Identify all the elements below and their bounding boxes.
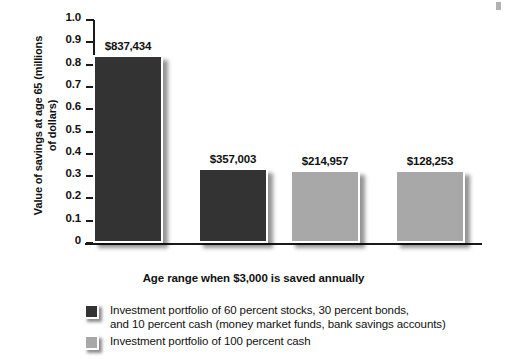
y-axis-tick: 0.9 [86,41,94,43]
y-axis-title: Value of savings at age 65 (millions of … [32,32,59,220]
y-axis-tick-label: 0.6 [66,100,81,112]
legend-swatch-dark [84,304,99,319]
y-axis-title-line-1: Value of savings at age 65 [32,83,44,215]
legend-label-line-2: and 10 percent cash (money market funds,… [110,317,446,331]
y-axis-tick-label: 0.5 [66,123,81,135]
legend-swatch-light [84,335,99,350]
legend-item: Investment portfolio of 100 percent cash [84,334,504,350]
y-axis-tick-label: 0.2 [66,189,81,201]
bar-value-label: $128,253 [407,155,453,167]
bar-chart-figure: Value of savings at age 65 (millions of … [0,0,507,359]
legend-item: Investment portfolio of 60 percent stock… [84,303,504,331]
y-axis-tick-label: 1.0 [66,11,81,23]
bar-value-label: $214,957 [302,155,348,167]
plot-area: 1.0 0.9 0.8 0.7 0.6 0.5 0.4 0.3 0.2 0.1 [93,20,483,243]
y-axis-tick-label: 0.9 [66,33,81,45]
scan-artifact [496,2,501,10]
bar-value-label: $837,434 [105,40,151,52]
bar: $837,434 [93,55,163,243]
chart-legend: Investment portfolio of 60 percent stock… [84,303,504,353]
y-axis-tick-label: 0 [75,234,81,246]
y-axis-tick: 1.0 [86,19,94,21]
legend-label: Investment portfolio of 60 percent stock… [110,303,446,331]
bar: $128,253 [395,170,465,243]
bar: $214,957 [290,170,360,243]
legend-label-line-1: Investment portfolio of 60 percent stock… [110,303,446,317]
y-axis-tick-label: 0.7 [66,78,81,90]
bar-value-label: $357,003 [210,153,256,165]
x-axis-line [85,243,482,245]
y-axis-tick-label: 0.4 [66,145,81,157]
y-axis-tick-label: 0.3 [66,167,81,179]
bar: $357,003 [198,168,268,243]
y-axis-tick-label: 0.8 [66,56,81,68]
legend-label-line-1: Investment portfolio of 100 percent cash [110,334,311,348]
legend-label: Investment portfolio of 100 percent cash [110,334,311,348]
y-axis-tick-label: 0.1 [66,212,81,224]
x-axis-title: Age range when $3,000 is saved annually [0,272,507,284]
